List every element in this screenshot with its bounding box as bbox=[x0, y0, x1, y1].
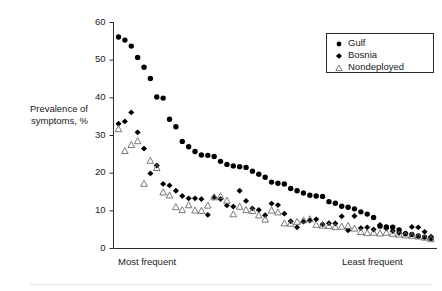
data-point bbox=[250, 168, 255, 173]
data-point bbox=[224, 162, 229, 167]
data-point bbox=[198, 207, 205, 213]
data-point bbox=[211, 154, 216, 159]
data-point bbox=[275, 209, 282, 215]
data-point bbox=[409, 224, 415, 230]
data-point bbox=[186, 195, 192, 201]
legend-label-bosnia: Bosnia bbox=[348, 49, 377, 60]
data-point bbox=[294, 224, 300, 230]
data-point bbox=[192, 149, 197, 154]
data-point bbox=[160, 181, 166, 187]
data-point bbox=[281, 220, 288, 226]
y-tick-label: 60 bbox=[74, 16, 106, 27]
data-point bbox=[236, 203, 243, 209]
x-axis-left-label: Most frequent bbox=[118, 256, 176, 267]
data-point bbox=[167, 116, 172, 121]
open-triangle-icon bbox=[333, 60, 345, 72]
data-point bbox=[294, 218, 301, 224]
data-point bbox=[256, 212, 263, 218]
data-point bbox=[122, 37, 127, 42]
y-axis-ticks bbox=[110, 23, 114, 249]
figure-container: Prevalence of symptoms, % 0102030405060 … bbox=[0, 0, 442, 291]
data-point bbox=[224, 197, 231, 203]
data-point bbox=[198, 196, 204, 202]
data-point bbox=[358, 209, 363, 214]
data-point bbox=[243, 198, 249, 204]
data-point bbox=[237, 164, 242, 169]
data-point bbox=[116, 34, 121, 39]
data-point bbox=[141, 146, 147, 152]
legend-entry-bosnia: Bosnia bbox=[333, 48, 433, 60]
data-point bbox=[148, 76, 153, 81]
data-point bbox=[262, 174, 267, 179]
data-point bbox=[147, 171, 153, 177]
data-point bbox=[320, 194, 325, 199]
x-axis-right-label: Least frequent bbox=[342, 256, 403, 267]
data-point bbox=[134, 138, 141, 144]
y-tick-label: 30 bbox=[74, 129, 106, 140]
data-point bbox=[166, 192, 173, 198]
data-point bbox=[179, 193, 185, 199]
data-point bbox=[128, 141, 135, 147]
data-point bbox=[218, 159, 223, 164]
y-tick-label: 40 bbox=[74, 91, 106, 102]
data-point bbox=[141, 65, 146, 70]
data-point bbox=[204, 202, 211, 208]
legend: Gulf Bosnia Nondeployed bbox=[326, 33, 434, 73]
data-point bbox=[313, 221, 320, 227]
data-point bbox=[141, 180, 148, 186]
data-point bbox=[345, 205, 350, 210]
data-point bbox=[237, 188, 243, 194]
data-point bbox=[205, 153, 210, 158]
data-point bbox=[288, 186, 293, 191]
data-point bbox=[243, 207, 250, 213]
data-point bbox=[129, 43, 134, 48]
data-point bbox=[358, 229, 365, 235]
data-point bbox=[154, 94, 159, 99]
data-point bbox=[332, 224, 339, 230]
data-point bbox=[192, 195, 198, 201]
data-point bbox=[186, 144, 191, 149]
data-point bbox=[262, 216, 269, 222]
data-point bbox=[173, 188, 179, 194]
data-point bbox=[307, 193, 312, 198]
data-point bbox=[294, 188, 299, 193]
data-point bbox=[269, 179, 274, 184]
data-point bbox=[301, 190, 306, 195]
data-point bbox=[180, 139, 185, 144]
data-point bbox=[351, 225, 358, 231]
data-point bbox=[173, 204, 180, 210]
data-point bbox=[230, 211, 237, 217]
data-point bbox=[199, 152, 204, 157]
legend-label-nondeployed: Nondeployed bbox=[348, 61, 404, 72]
legend-entry-gulf: Gulf bbox=[333, 36, 433, 48]
data-point bbox=[282, 181, 287, 186]
data-point bbox=[115, 126, 122, 132]
data-point bbox=[281, 211, 287, 217]
data-point bbox=[122, 119, 128, 125]
series-bosnia-points bbox=[115, 110, 434, 240]
data-point bbox=[268, 207, 275, 213]
data-point bbox=[243, 165, 248, 170]
data-point bbox=[415, 224, 421, 230]
y-axis-title: Prevalence of symptoms, % bbox=[10, 103, 88, 127]
data-point bbox=[364, 230, 371, 236]
filled-circle-icon bbox=[333, 36, 345, 48]
y-tick-label: 10 bbox=[74, 204, 106, 215]
data-point bbox=[352, 206, 357, 211]
filled-diamond-icon bbox=[333, 48, 345, 60]
data-point bbox=[135, 129, 141, 135]
data-point bbox=[173, 124, 178, 129]
data-point bbox=[377, 230, 384, 236]
data-point bbox=[135, 55, 140, 60]
legend-label-gulf: Gulf bbox=[348, 37, 365, 48]
data-point bbox=[338, 223, 345, 229]
data-point bbox=[230, 204, 236, 210]
data-point bbox=[231, 163, 236, 168]
data-point bbox=[179, 207, 186, 213]
data-point bbox=[122, 148, 129, 154]
data-point bbox=[256, 171, 261, 176]
data-point bbox=[147, 157, 154, 163]
y-tick-label: 50 bbox=[74, 53, 106, 64]
data-point bbox=[326, 199, 331, 204]
y-tick-label: 0 bbox=[74, 242, 106, 253]
